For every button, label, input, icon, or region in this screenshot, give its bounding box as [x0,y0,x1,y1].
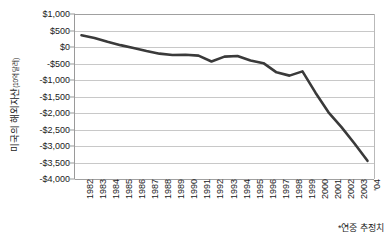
y-axis-tick-label: -$2,500 [24,125,70,135]
footnote-estimate: *연중 추정치 [338,221,384,234]
x-axis-tick-label-text: 1987 [150,179,160,199]
x-axis-tick-labels: 1982198319841985198619871988198919901991… [74,179,375,229]
x-axis-tick-label-text: 1990 [189,179,199,199]
x-axis-tick-label-text: 1997 [281,179,291,199]
y-axis-tick-label: $1,000 [24,9,70,19]
x-axis-tick-label: 1982 [85,179,95,199]
x-axis-tick-label: 1987 [150,179,160,199]
x-axis-tick-label-text: 1983 [98,179,108,199]
y-axis-tick-label: -$3,000 [24,141,70,151]
x-axis-tick-label: 1999 [307,179,317,199]
y-axis-tick-label: -$1,500 [24,92,70,102]
series-polyline [81,35,367,161]
y-axis-title-unit: (10억 달러) [12,58,19,88]
y-axis-tick-label: -$1,000 [24,75,70,85]
x-axis-tick-label-text: 1986 [137,179,147,199]
x-axis-tick-label-text: 1994 [242,179,252,199]
x-axis-tick-label: 1992 [215,179,225,199]
x-axis-tick-label: 1997 [281,179,291,199]
data-series-line [75,14,374,178]
x-axis-tick-label: 1989 [176,179,186,199]
y-axis-tick-label: $500 [24,26,70,36]
x-axis-tick-label: 2003 [359,179,369,199]
x-axis-tick-label-text: 1985 [124,179,134,199]
y-axis-tick-label: -$2,000 [24,108,70,118]
x-axis-tick-label: 2002 [346,179,356,199]
x-axis-tick-label-text: 1995 [255,179,265,199]
x-axis-tick-label-text: 1989 [176,179,186,199]
x-axis-tick-label: 1993 [229,179,239,199]
x-axis-tick-label-text: 2003 [359,179,369,199]
y-axis-tick-labels: $1,000$500$0-$500-$1,000-$1,500-$2,000-$… [24,0,70,236]
x-axis-tick-label-text: 2000 [320,179,330,199]
y-axis-title-text: 미국의 해외자산 [9,88,20,152]
x-axis-tick-label: 1998 [294,179,304,199]
x-axis-tick-label-text: 2001 [333,179,343,199]
x-axis-tick-label: 1983 [98,179,108,199]
x-axis-tick-label-text: 1993 [229,179,239,199]
x-axis-tick-label: 1994 [242,179,252,199]
plot-area [74,14,375,179]
y-axis-tick-label: -$500 [24,59,70,69]
x-axis-tick-label-text: 1991 [202,179,212,199]
x-axis-tick-label-text: 1992 [215,179,225,199]
y-axis-tick-label: $0 [24,42,70,52]
x-axis-tick-label-text: 1998 [294,179,304,199]
x-axis-tick-label-text: 1988 [163,179,173,199]
y-axis-tick-label: -$3,500 [24,158,70,168]
x-axis-tick-label: 1985 [124,179,134,199]
x-axis-tick-label: 1988 [163,179,173,199]
x-axis-tick-label: 1995 [255,179,265,199]
x-axis-tick-label: 1986 [137,179,147,199]
chart-container: 미국의 해외자산(10억 달러) $1,000$500$0-$500-$1,00… [0,0,390,236]
x-axis-tick-label: '04 [372,179,382,191]
y-axis-title: 미국의 해외자산(10억 달러) [7,15,21,195]
x-axis-tick-label-text: '04 [372,179,382,191]
x-axis-tick-label-text: 1999 [307,179,317,199]
x-axis-tick-label: 1990 [189,179,199,199]
x-axis-tick-label: 1984 [111,179,121,199]
x-axis-tick-label: 1991 [202,179,212,199]
x-axis-tick-label: 2000 [320,179,330,199]
x-axis-tick-label: 1996 [268,179,278,199]
x-axis-tick-label-text: 1996 [268,179,278,199]
x-axis-tick-label-text: 1984 [111,179,121,199]
x-axis-tick-label-text: 1982 [85,179,95,199]
y-axis-tick-label: -$4,000 [24,174,70,184]
x-axis-tick-label-text: 2002 [346,179,356,199]
x-axis-tick-label: 2001 [333,179,343,199]
